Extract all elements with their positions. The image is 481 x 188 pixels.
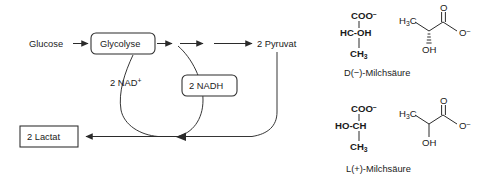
biochemistry-diagram: Glucose Glycolyse 2 Pyruvat 2 NAD+ 2 NAD… bbox=[0, 0, 481, 188]
cofactor-nad-label: 2 NAD+ bbox=[110, 77, 141, 88]
l-carbonyl-oxygen: O bbox=[440, 95, 447, 106]
l-skeletal-structure: H3C O O– OH bbox=[399, 95, 470, 148]
d-fischer-center: HC-OH bbox=[340, 27, 372, 38]
l-methyl-label: H3C bbox=[399, 108, 417, 120]
substrate-label: Glucose bbox=[29, 39, 63, 49]
d-hashed-wedge-bond bbox=[426, 34, 431, 43]
l-bond-to-carboxyl bbox=[429, 115, 443, 124]
lactate-box-label: 2 Lactat bbox=[27, 132, 60, 142]
l-hydroxyl-label: OH bbox=[422, 137, 436, 148]
l-form-caption: L(+)-Milchsäure bbox=[346, 164, 411, 174]
d-skeletal-structure: H3C O O– OH bbox=[399, 2, 470, 55]
svg-text:2 NAD+: 2 NAD+ bbox=[110, 77, 141, 88]
l-fischer-top-group: COO– bbox=[351, 103, 377, 114]
d-fischer-top-group: COO– bbox=[351, 10, 377, 21]
l-carboxylate-oxygen: O– bbox=[459, 120, 470, 131]
arrowhead-cofactor-merge bbox=[176, 133, 186, 142]
l-bond-to-carboxylate bbox=[443, 115, 457, 124]
d-bond-to-carboxylate bbox=[443, 22, 457, 31]
l-fischer-center: HO-CH bbox=[335, 120, 367, 131]
pyruvate-label: 2 Pyruvat bbox=[257, 39, 297, 49]
structure-l-lactic-acid: COO– HO-CH CH3 H3C O O– bbox=[335, 95, 470, 174]
pathway-diagram: Glucose Glycolyse 2 Pyruvat 2 NAD+ 2 NAD… bbox=[20, 33, 297, 147]
l-bond-methyl bbox=[415, 115, 429, 124]
nadh-box-label: 2 NADH bbox=[189, 81, 223, 91]
l-fischer-bottom-group: CH3 bbox=[350, 141, 368, 153]
d-bond-methyl bbox=[415, 22, 429, 31]
d-carbonyl-oxygen: O bbox=[440, 2, 447, 13]
d-fischer-bottom-group: CH3 bbox=[350, 48, 368, 60]
d-carboxylate-oxygen: O– bbox=[459, 27, 470, 38]
l-fischer-projection: COO– HO-CH CH3 bbox=[335, 103, 377, 154]
d-methyl-label: H3C bbox=[399, 15, 417, 27]
structure-d-lactic-acid: COO– HC-OH CH3 H3C bbox=[340, 2, 470, 78]
nad-charge: + bbox=[137, 77, 141, 84]
d-hydroxyl-label: OH bbox=[422, 44, 436, 55]
curve-nad-oxidized bbox=[120, 55, 158, 137]
d-fischer-projection: COO– HC-OH CH3 bbox=[340, 10, 377, 61]
d-form-caption: D(−)-Milchsäure bbox=[344, 68, 410, 78]
nad-text: 2 NAD bbox=[110, 78, 138, 88]
d-bond-to-carboxyl bbox=[429, 22, 443, 31]
glycolysis-box-label: Glycolyse bbox=[100, 39, 140, 49]
